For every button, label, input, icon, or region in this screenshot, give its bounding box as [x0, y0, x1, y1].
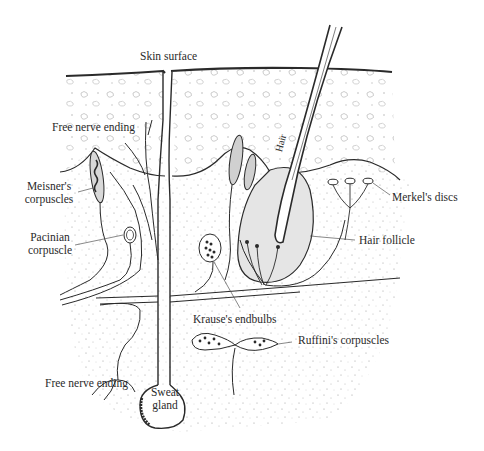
- label-krauses-endbulbs: Krause's endbulbs: [193, 313, 277, 326]
- merkel-discs: [328, 178, 373, 185]
- label-skin-surface: Skin surface: [140, 50, 197, 63]
- skin-receptors-diagram: Skin surface Free nerve ending Meisner's…: [0, 0, 484, 451]
- label-free-nerve-ending-top: Free nerve ending: [52, 121, 135, 134]
- label-pacinian-line2: corpuscle: [26, 244, 74, 257]
- label-hair-follicle: Hair follicle: [359, 234, 415, 247]
- label-sweat-gland: Sweat gland: [145, 386, 185, 412]
- label-ruffinis-corpuscles: Ruffini's corpuscles: [298, 334, 389, 347]
- krause-endbulb: [199, 234, 221, 262]
- label-free-nerve-ending-bottom: Free nerve ending: [45, 377, 128, 390]
- label-meisners-corpuscles: Meisner's corpuscles: [24, 180, 74, 206]
- label-sweat-line2: gland: [145, 399, 185, 412]
- label-meisners-line1: Meisner's: [24, 180, 74, 193]
- pacinian-corpuscle: [124, 227, 136, 243]
- label-sweat-line1: Sweat: [145, 386, 185, 399]
- label-pacinian-line1: Pacinian: [26, 231, 74, 244]
- label-merkels-discs: Merkel's discs: [392, 191, 458, 204]
- label-meisners-line2: corpuscles: [24, 193, 74, 206]
- label-pacinian-corpuscle: Pacinian corpuscle: [26, 231, 74, 257]
